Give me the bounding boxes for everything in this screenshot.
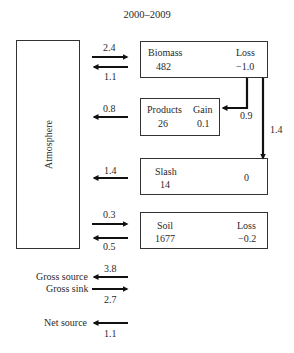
flux-soil-release: 0.5 — [103, 241, 116, 253]
arrow-biomass-to-products-icon — [223, 78, 247, 108]
net-source-label: Net source — [44, 317, 87, 329]
gross-source-label: Gross source — [36, 271, 88, 283]
flux-biomass-to-slash: 1.4 — [270, 124, 283, 136]
flux-biomass-release: 1.1 — [104, 71, 117, 83]
gross-source-value: 3.8 — [104, 263, 117, 275]
flux-biomass-to-products: 0.9 — [240, 110, 253, 122]
flux-slash-release: 1.4 — [104, 165, 117, 177]
flux-arrows — [0, 0, 294, 353]
gross-sink-value: 2.7 — [104, 294, 117, 306]
flux-products-release: 0.8 — [103, 103, 116, 115]
gross-sink-label: Gross sink — [46, 283, 89, 295]
flux-soil-uptake: 0.3 — [103, 209, 116, 221]
flux-biomass-uptake: 2.4 — [103, 42, 116, 54]
net-source-value: 1.1 — [104, 328, 117, 340]
